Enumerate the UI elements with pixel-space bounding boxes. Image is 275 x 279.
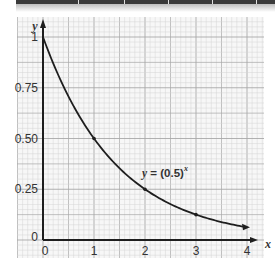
chart: 0123400.250.500.751yxy = (0.5)x — [0, 0, 275, 279]
y-axis-label: y — [30, 19, 38, 33]
graph-paper-grid — [17, 17, 264, 258]
data-point — [92, 137, 96, 141]
x-tick-label: 2 — [142, 244, 149, 258]
y-tick-label: 0 — [31, 230, 38, 244]
y-tick-label: 0.50 — [15, 132, 39, 146]
graph-paper — [17, 17, 264, 258]
data-point — [194, 213, 198, 217]
x-axis-label: x — [264, 237, 271, 251]
x-tick-label: 4 — [244, 244, 251, 258]
x-tick-label: 3 — [193, 244, 200, 258]
y-tick-label: 0.75 — [15, 81, 39, 95]
equation-label: y = (0.5)x — [140, 164, 188, 180]
x-tick-label: 1 — [91, 244, 98, 258]
x-tick-label: 0 — [42, 244, 49, 258]
y-tick-label: 0.25 — [15, 182, 39, 196]
data-point — [143, 187, 147, 191]
